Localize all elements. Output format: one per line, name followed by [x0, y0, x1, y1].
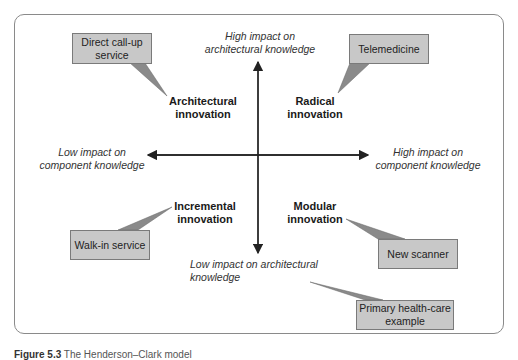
callout-direct-call-up: Direct call-up service — [72, 33, 152, 64]
quadrant-radical-line1: Radical — [280, 95, 350, 108]
axis-label-left-line1: Low impact on — [32, 146, 152, 159]
quadrant-modular-line1: Modular — [280, 200, 350, 213]
quadrant-modular: Modular innovation — [280, 200, 350, 225]
callout-telemedicine-text: Telemedicine — [358, 43, 419, 56]
axis-label-right-line2: component knowledge — [368, 159, 488, 172]
callout-new-scanner-text: New scanner — [387, 248, 448, 261]
callout-new-scanner: New scanner — [378, 239, 458, 269]
quadrant-incremental: Incremental innovation — [170, 200, 240, 225]
quadrant-incremental-line1: Incremental — [170, 200, 240, 213]
axis-label-top-line2: architectural knowledge — [200, 43, 320, 56]
axis-label-top: High impact on architectural knowledge — [200, 30, 320, 56]
callout-legend: Primary health-care example — [356, 300, 454, 330]
axis-label-right: High impact on component knowledge — [368, 146, 488, 172]
quadrant-radical-line2: innovation — [280, 108, 350, 121]
callout-legend-line1: Primary health-care — [359, 302, 451, 315]
axis-label-bottom-line2: knowledge — [190, 271, 318, 284]
figure-caption-text: The Henderson–Clark model — [64, 349, 192, 360]
quadrant-radical: Radical innovation — [280, 95, 350, 120]
figure-caption-label: Figure 5.3 — [14, 349, 61, 360]
callout-legend-line2: example — [359, 315, 451, 328]
callout-walk-in: Walk-in service — [70, 230, 150, 260]
quadrant-modular-line2: innovation — [280, 213, 350, 226]
quadrant-incremental-line2: innovation — [170, 213, 240, 226]
callout-direct-call-up-line2: service — [81, 49, 142, 62]
axis-label-left-line2: component knowledge — [32, 159, 152, 172]
quadrant-architectural-line2: innovation — [168, 108, 238, 121]
axis-label-bottom: Low impact on architectural knowledge — [190, 258, 318, 284]
callout-direct-call-up-line1: Direct call-up — [81, 36, 142, 49]
axis-label-top-line1: High impact on — [200, 30, 320, 43]
figure-caption: Figure 5.3 The Henderson–Clark model — [14, 349, 192, 360]
axis-label-left: Low impact on component knowledge — [32, 146, 152, 172]
quadrant-architectural: Architectural innovation — [168, 95, 238, 120]
quadrant-architectural-line1: Architectural — [168, 95, 238, 108]
axis-label-bottom-line1: Low impact on architectural — [190, 258, 318, 271]
axis-label-right-line1: High impact on — [368, 146, 488, 159]
callout-telemedicine: Telemedicine — [349, 34, 429, 64]
callout-walk-in-text: Walk-in service — [75, 239, 146, 252]
